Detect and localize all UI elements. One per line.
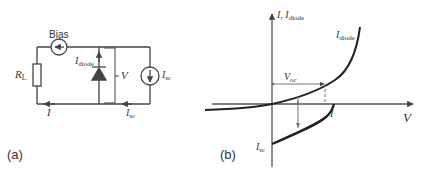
cell-curve — [272, 104, 334, 144]
diode-triangle — [92, 68, 106, 80]
load-label: RL — [15, 69, 26, 82]
voltage-label: V — [121, 70, 128, 81]
load-label-sub: L — [22, 73, 27, 82]
curve-label-sub: diode — [339, 34, 355, 42]
x-axis-label: V — [403, 111, 411, 124]
voltage-bracket — [104, 48, 115, 103]
voc-label-sub: oc — [290, 76, 297, 84]
isc-label-sub: sc — [259, 146, 265, 154]
diagram-canvas — [0, 0, 428, 173]
bottom-source-sub: sc — [129, 112, 135, 120]
load-resistor — [33, 64, 41, 86]
circuit-schematic — [33, 39, 159, 104]
source-label: Isc — [162, 70, 171, 82]
caption-b: (b) — [220, 148, 236, 161]
i-label: I — [330, 109, 333, 119]
loop-current-label: I — [47, 107, 51, 118]
diode-current-sub: diode — [78, 60, 94, 68]
diode-current-label: Idiode — [75, 56, 94, 68]
source-label-sub: sc — [165, 74, 171, 82]
y-axis-main: I, I — [277, 9, 289, 20]
isc-label: Isc — [256, 142, 265, 154]
curve-label: Idiode — [336, 30, 355, 42]
y-axis-label: I, Idiode — [277, 10, 304, 22]
bottom-source-label: Isc — [126, 108, 135, 120]
iv-plot — [205, 14, 413, 167]
voc-label: Voc — [284, 72, 297, 84]
caption-a: (a) — [7, 148, 23, 161]
load-label-main: R — [15, 68, 22, 80]
bias-label: Bias — [49, 30, 68, 40]
y-axis-sub: diode — [289, 14, 305, 22]
